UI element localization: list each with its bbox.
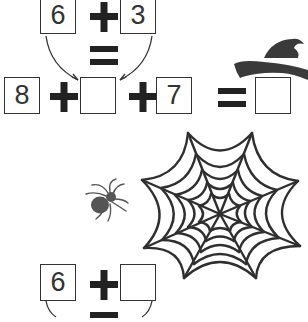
bottom-arc-lines <box>0 0 308 317</box>
